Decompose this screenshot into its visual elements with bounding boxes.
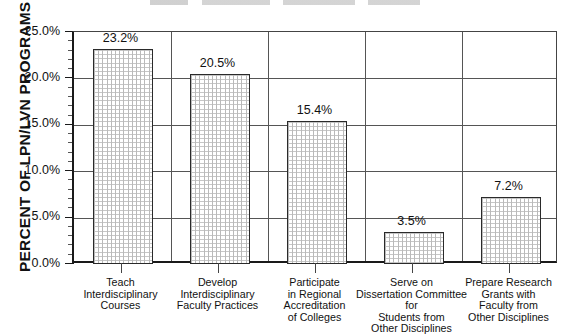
y-tick-label-0: 0.0% — [0, 257, 60, 270]
category-label-4: Prepare ResearchGrants withFaculty fromO… — [451, 277, 566, 323]
bar-2 — [287, 121, 347, 264]
bar-3 — [384, 232, 444, 264]
category-label-line: Prepare Research — [451, 277, 566, 289]
y-tick-label-10: 10.0% — [0, 164, 60, 177]
category-tick-2 — [315, 263, 316, 273]
value-label-0: 23.2% — [76, 32, 166, 45]
category-separator-4 — [462, 32, 463, 261]
value-label-2: 15.4% — [270, 104, 360, 117]
category-label-line: Other Disciplines — [354, 323, 469, 335]
y-tick-label-15: 15.0% — [0, 117, 60, 130]
value-label-1: 20.5% — [173, 57, 263, 70]
y-axis-title: PERCENT OF LPN/LVN PROGRAMS — [16, 2, 34, 272]
y-tick-label-5: 5.0% — [0, 210, 60, 223]
category-separator-2 — [268, 32, 269, 261]
bar-1 — [190, 74, 250, 264]
y-tick-label-20: 20.0% — [0, 71, 60, 84]
category-tick-3 — [412, 263, 413, 273]
cropped-title-remnant — [150, 0, 420, 5]
category-tick-4 — [509, 263, 510, 273]
bar-0 — [93, 49, 153, 264]
y-tick-label-25: 25.0% — [0, 25, 60, 38]
value-label-3: 3.5% — [367, 215, 457, 228]
plot-area — [72, 31, 557, 263]
category-tick-1 — [218, 263, 219, 273]
value-label-4: 7.2% — [464, 180, 554, 193]
category-tick-0 — [121, 263, 122, 273]
y-tick-major-0 — [65, 263, 74, 264]
category-label-line: Other Disciplines — [451, 312, 566, 324]
bar-4 — [481, 197, 541, 264]
